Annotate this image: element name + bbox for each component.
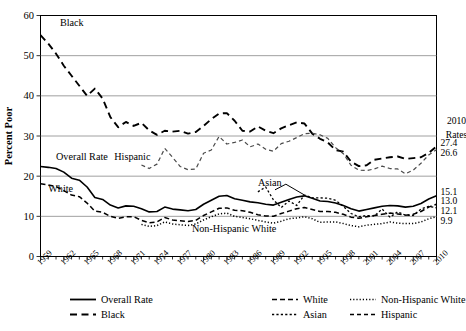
annotation-white: White	[48, 183, 73, 194]
legend-label-asian: Asian	[303, 309, 327, 320]
legend-label-white: White	[303, 294, 328, 305]
legend-label-overall-rate: Overall Rate	[101, 294, 153, 305]
ytick-label-30: 30	[24, 131, 35, 142]
rate-2010-hispanic: 26.6	[441, 147, 458, 158]
rate-2010-non-hispanic-white: 9.9	[441, 215, 453, 226]
rates-header-year: 2010	[447, 115, 466, 126]
annotation-asian: Asian	[258, 177, 282, 188]
ytick-label-10: 10	[24, 211, 35, 222]
annotation-overall-rate: Overall Rate	[56, 151, 108, 162]
legend-label-non-hispanic-white: Non-Hispanic White	[381, 294, 466, 305]
poverty-rate-chart: 0102030405060Percent Poor195919621965196…	[0, 0, 466, 331]
annotation-hispanic: Hispanic	[114, 151, 151, 162]
ytick-label-50: 50	[24, 50, 35, 61]
legend-label-hispanic: Hispanic	[381, 309, 418, 320]
annotation-non-hispanic-white: Non-Hispanic White	[192, 223, 277, 234]
legend-label-black: Black	[101, 309, 126, 320]
ytick-label-20: 20	[24, 171, 35, 182]
ytick-label-40: 40	[24, 90, 35, 101]
ytick-label-0: 0	[29, 251, 34, 262]
ytick-label-60: 60	[24, 10, 35, 21]
annotation-black: Black	[60, 17, 85, 28]
y-axis-title: Percent Poor	[3, 106, 14, 165]
chart-canvas: 0102030405060Percent Poor195919621965196…	[0, 0, 466, 331]
